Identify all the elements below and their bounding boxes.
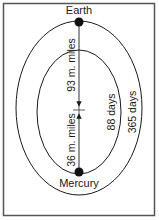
earth-period-label: 365 days bbox=[126, 91, 138, 134]
earth-dot bbox=[75, 18, 84, 27]
orbit-diagram-svg: Earth Mercury 93 m. miles 36 m. miles 88… bbox=[0, 0, 159, 220]
mercury-distance-label: 36 m. miles bbox=[65, 113, 77, 167]
mercury-dot bbox=[75, 168, 84, 177]
earth-distance-label: 93 m. miles bbox=[65, 38, 77, 92]
orbit-diagram: Earth Mercury 93 m. miles 36 m. miles 88… bbox=[0, 0, 159, 220]
mercury-period-label: 88 days bbox=[105, 94, 117, 131]
earth-label: Earth bbox=[66, 4, 92, 16]
mercury-label: Mercury bbox=[59, 177, 99, 189]
